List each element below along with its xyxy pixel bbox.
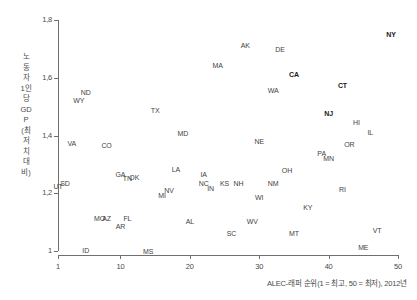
data-point-ny[interactable]: NY [386, 30, 396, 37]
data-point-ar[interactable]: AR [116, 223, 126, 230]
data-point-nj[interactable]: NJ [324, 109, 333, 116]
y-tick-label: 1,6 [28, 73, 52, 82]
data-point-oh[interactable]: OH [282, 167, 292, 174]
scatter-chart: 노동자 1인당 GDP (최저치 대비) 11,21,41,61,8 11020… [0, 0, 417, 300]
data-point-il[interactable]: IL [367, 129, 373, 136]
data-point-md[interactable]: MD [178, 130, 189, 137]
y-tick-label: 1 [28, 246, 52, 255]
x-axis-caption: ALEC-래퍼 순위(1 = 최고, 50 = 최저), 2012년 [0, 277, 407, 288]
y-axis-line [58, 20, 59, 251]
data-point-or[interactable]: OR [344, 140, 354, 147]
data-point-ri[interactable]: RI [339, 185, 346, 192]
data-point-mn[interactable]: MN [323, 155, 334, 162]
y-tick-mark [54, 20, 58, 21]
y-tick-label: 1,4 [28, 131, 52, 140]
data-point-wi[interactable]: WI [255, 193, 263, 200]
y-axis-title: 노동자 1인당 GDP (최저치 대비) [20, 52, 32, 178]
x-tick-label: 1 [56, 262, 60, 271]
data-point-wa[interactable]: WA [268, 86, 279, 93]
data-point-nh[interactable]: NH [233, 179, 243, 186]
data-point-ks[interactable]: KS [220, 179, 229, 186]
y-tick-mark [54, 251, 58, 252]
data-point-mt[interactable]: MT [289, 229, 299, 236]
x-tick-label: 10 [116, 262, 124, 271]
x-tick-mark [58, 255, 59, 259]
data-point-in[interactable]: IN [207, 184, 214, 191]
data-point-ca[interactable]: CA [289, 71, 299, 78]
x-tick-label: 50 [394, 262, 402, 271]
y-tick-mark [54, 193, 58, 194]
data-point-ma[interactable]: MA [212, 61, 222, 68]
data-point-ct[interactable]: CT [338, 81, 347, 88]
data-point-vt[interactable]: VT [373, 227, 382, 234]
data-point-va[interactable]: VA [68, 140, 77, 147]
data-point-ak[interactable]: AK [241, 42, 250, 49]
data-point-id[interactable]: ID [82, 247, 89, 254]
y-tick-mark [54, 78, 58, 79]
data-point-az[interactable]: AZ [102, 215, 111, 222]
data-point-nm[interactable]: NM [268, 179, 279, 186]
data-point-la[interactable]: LA [172, 166, 180, 173]
x-axis-line [58, 255, 398, 256]
data-point-wv[interactable]: WV [247, 217, 258, 224]
data-point-wy[interactable]: WY [73, 97, 84, 104]
data-point-nv[interactable]: NV [164, 186, 174, 193]
data-point-ok[interactable]: OK [129, 173, 139, 180]
x-tick-label: 30 [255, 262, 263, 271]
data-point-al[interactable]: AL [186, 217, 194, 224]
data-point-ne[interactable]: NE [254, 138, 264, 145]
x-tick-mark [120, 255, 121, 259]
data-point-co[interactable]: CO [101, 141, 111, 148]
data-point-ia[interactable]: IA [200, 170, 206, 177]
y-tick-label: 1,8 [28, 15, 52, 24]
data-point-tx[interactable]: TX [151, 106, 160, 113]
data-point-de[interactable]: DE [275, 46, 285, 53]
data-point-fl[interactable]: FL [123, 214, 131, 221]
x-tick-mark [329, 255, 330, 259]
data-point-me[interactable]: ME [358, 243, 368, 250]
data-point-ms[interactable]: MS [143, 247, 153, 254]
data-point-ky[interactable]: KY [303, 204, 312, 211]
data-point-sc[interactable]: SC [227, 230, 237, 237]
x-tick-mark [398, 255, 399, 259]
x-tick-mark [190, 255, 191, 259]
data-point-nd[interactable]: ND [81, 88, 91, 95]
x-tick-label: 40 [325, 262, 333, 271]
y-tick-label: 1,2 [28, 188, 52, 197]
data-point-sd[interactable]: SD [60, 180, 70, 187]
x-tick-label: 20 [186, 262, 194, 271]
x-tick-mark [259, 255, 260, 259]
data-point-hi[interactable]: HI [353, 118, 360, 125]
y-tick-mark [54, 136, 58, 137]
